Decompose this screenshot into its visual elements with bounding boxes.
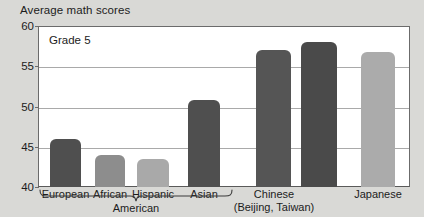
y-axis-tick-label: 40 [0, 181, 34, 193]
y-axis-tick-label: 50 [0, 101, 34, 113]
y-axis: 4045505560 [0, 0, 38, 217]
bar [301, 42, 337, 187]
group-label: Japanese [354, 188, 402, 200]
group-label: American [113, 202, 159, 214]
bar [95, 155, 125, 187]
bar [50, 139, 81, 187]
gridline [39, 67, 409, 68]
group-label: (Beijing, Taiwan) [234, 201, 315, 213]
y-axis-tick-label: 60 [0, 20, 34, 32]
group-label: Chinese [254, 188, 294, 200]
american-brace-icon [38, 189, 234, 203]
gridline [39, 148, 409, 149]
bar [137, 159, 169, 187]
bar [256, 50, 291, 187]
grade-annotation: Grade 5 [49, 34, 91, 46]
chart-container: Average math scores 4045505560 Grade 5 E… [0, 0, 424, 217]
gridline [39, 108, 409, 109]
y-axis-tick-label: 45 [0, 141, 34, 153]
bar [361, 52, 395, 187]
plot-area: Grade 5 [38, 26, 410, 187]
bar [188, 100, 220, 187]
y-axis-tick-label: 55 [0, 60, 34, 72]
y-axis-tick-mark [35, 187, 39, 188]
